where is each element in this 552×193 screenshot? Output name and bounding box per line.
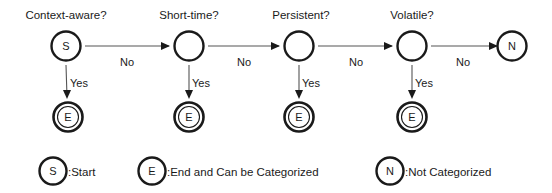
legend-item-not-categorized: N :Not Categorized <box>377 158 492 185</box>
node-glyph-not-categorized: N <box>508 40 516 52</box>
arrow-head-icon <box>295 90 303 99</box>
edge-label-yes-1: Yes <box>70 77 88 89</box>
vertical-edges <box>63 65 416 99</box>
legend-glyph-start: S <box>49 165 56 177</box>
node-glyph-end: E <box>64 111 71 123</box>
terminal-node-not-categorized[interactable]: N <box>498 32 527 61</box>
edge-no-2 <box>208 42 280 50</box>
edge-no-3 <box>318 42 393 50</box>
node-glyph-end: E <box>408 111 415 123</box>
decision-node-persistent[interactable] <box>285 32 314 61</box>
legend-glyph-end: E <box>148 165 155 177</box>
node-glyph-start: S <box>62 40 69 52</box>
end-nodes: E E E E <box>54 103 427 132</box>
edge-label-yes-3: Yes <box>302 77 320 89</box>
question-label-short-time: Short-time? <box>159 9 218 21</box>
legend-item-end: E :End and Can be Categorized <box>139 158 319 185</box>
node-circle <box>398 32 427 61</box>
edge-no-4 <box>431 42 498 50</box>
legend-label-start: :Start <box>68 166 96 178</box>
legend-label-end: :End and Can be Categorized <box>167 166 319 178</box>
edge-no-1 <box>85 42 170 50</box>
question-label-context-aware: Context-aware? <box>25 9 106 21</box>
node-glyph-end: E <box>185 111 192 123</box>
decision-flowchart: Context-aware? Short-time? Persistent? V… <box>0 0 552 193</box>
end-node-3[interactable]: E <box>285 103 314 132</box>
edge-label-no-3: No <box>349 56 363 68</box>
decision-node-short-time[interactable] <box>175 32 204 61</box>
legend-glyph-not-categorized: N <box>386 165 394 177</box>
legend: S :Start E :End and Can be Categorized N… <box>40 158 492 185</box>
end-node-4[interactable]: E <box>398 103 427 132</box>
edge-label-yes-4: Yes <box>415 77 433 89</box>
arrow-head-icon <box>408 90 416 99</box>
arrow-head-icon <box>384 42 393 50</box>
decision-node-volatile[interactable] <box>398 32 427 61</box>
arrow-head-icon <box>63 90 71 99</box>
decision-node-context-aware[interactable]: S <box>52 32 81 61</box>
arrow-head-icon <box>185 90 193 99</box>
edge-label-yes-2: Yes <box>192 77 210 89</box>
node-circle <box>285 32 314 61</box>
arrow-head-icon <box>271 42 280 50</box>
end-node-2[interactable]: E <box>175 103 204 132</box>
end-node-1[interactable]: E <box>54 103 83 132</box>
arrow-head-icon <box>161 42 170 50</box>
node-glyph-end: E <box>295 111 302 123</box>
node-circle <box>175 32 204 61</box>
edge-label-no-1: No <box>120 56 134 68</box>
question-label-volatile: Volatile? <box>390 9 433 21</box>
legend-label-not-categorized: :Not Categorized <box>405 166 491 178</box>
legend-item-start: S :Start <box>40 158 97 185</box>
edge-label-no-2: No <box>237 56 251 68</box>
question-label-persistent: Persistent? <box>272 9 330 21</box>
diagram-canvas: Context-aware? Short-time? Persistent? V… <box>0 0 552 193</box>
edge-label-no-4: No <box>456 56 470 68</box>
question-labels: Context-aware? Short-time? Persistent? V… <box>25 9 433 21</box>
